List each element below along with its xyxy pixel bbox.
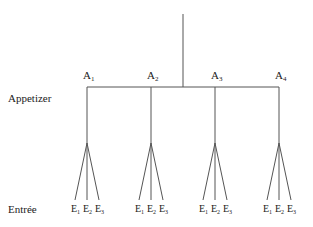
level-label-entree: Entrée [8, 203, 37, 215]
entree-label: E1 [263, 203, 272, 215]
tree-lines [0, 0, 313, 227]
entree-edge [87, 143, 99, 200]
appetizer-label: A4 [275, 69, 286, 83]
entree-edge [139, 143, 151, 200]
tree-diagram: Appetizer Entrée A1E1E2E3A2E1E2E3A3E1E2E… [0, 0, 313, 227]
entree-edge [203, 143, 215, 200]
entree-label: E1 [199, 203, 208, 215]
entree-label: E1 [71, 203, 80, 215]
entree-edge [151, 143, 163, 200]
entree-label: E2 [83, 203, 92, 215]
entree-label: E3 [287, 203, 296, 215]
appetizer-label: A3 [211, 69, 222, 83]
entree-label: E1 [135, 203, 144, 215]
entree-edge [267, 143, 279, 200]
entree-label: E2 [211, 203, 220, 215]
entree-label: E2 [275, 203, 284, 215]
entree-edge [279, 143, 291, 200]
entree-edge [215, 143, 227, 200]
appetizer-label: A1 [83, 69, 94, 83]
appetizer-label: A2 [147, 69, 158, 83]
level-label-appetizer: Appetizer [8, 92, 51, 104]
entree-label: E3 [159, 203, 168, 215]
entree-label: E3 [95, 203, 104, 215]
entree-edge [75, 143, 87, 200]
entree-label: E2 [147, 203, 156, 215]
entree-label: E3 [223, 203, 232, 215]
